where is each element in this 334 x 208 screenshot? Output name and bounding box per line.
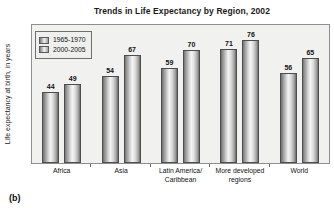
bar-series2 — [124, 55, 141, 163]
legend-label-series1: 1965-1970 — [53, 36, 86, 44]
bar-value: 76 — [247, 31, 255, 39]
bar-holder: 70 — [183, 25, 200, 163]
bar-holder: 54 — [102, 25, 119, 163]
bar-value: 71 — [225, 40, 233, 48]
x-axis-label-line2: regions — [210, 176, 269, 185]
bar-series2 — [183, 50, 200, 163]
x-axis-label-latin-america-caribbean: Latin America/ Caribbean — [151, 167, 210, 184]
bar-series1 — [42, 92, 59, 163]
bar-series2 — [64, 84, 81, 163]
bar-group-world: 56 65 — [270, 25, 329, 163]
legend-item-series2: 2000-2005 — [39, 45, 86, 54]
bar-holder: 76 — [242, 25, 259, 163]
bar-series1 — [220, 49, 237, 163]
legend-item-series1: 1965-1970 — [39, 36, 86, 45]
bar-holder: 65 — [302, 25, 319, 163]
x-axis-label-line1: More developed — [216, 167, 265, 174]
chart-legend: 1965-1970 2000-2005 — [35, 31, 92, 59]
x-axis-label-asia: Asia — [91, 167, 150, 184]
x-axis-label-line1: Africa — [53, 167, 70, 174]
bar-holder: 59 — [161, 25, 178, 163]
figure-caption: (b) — [9, 193, 21, 203]
y-axis-title-wrapper: Life expectancy at birth, in years — [0, 24, 14, 164]
chart-title: Trends in Life Expectancy by Region, 200… — [32, 6, 332, 16]
bar-holder: 71 — [220, 25, 237, 163]
bar-series1 — [280, 73, 297, 163]
bar-group-latin-america-caribbean: 59 70 — [151, 25, 210, 163]
chart-screenshot: Trends in Life Expectancy by Region, 200… — [0, 0, 334, 208]
bar-group-more-developed-regions: 71 76 — [210, 25, 269, 163]
bar-value: 44 — [47, 83, 55, 91]
bar-series1 — [102, 76, 119, 163]
bar-value: 54 — [106, 67, 114, 75]
y-axis-title: Life expectancy at birth, in years — [4, 44, 11, 144]
bar-value: 65 — [306, 49, 314, 57]
bar-series2 — [302, 58, 319, 163]
bar-group-asia: 54 67 — [91, 25, 150, 163]
bar-holder: 56 — [280, 25, 297, 163]
x-axis-label-line1: Asia — [114, 167, 127, 174]
bar-holder: 67 — [124, 25, 141, 163]
x-axis-label-more-developed-regions: More developed regions — [210, 167, 269, 184]
legend-swatch-series2 — [39, 46, 49, 53]
x-axis-label-line1: Latin America/ — [159, 167, 202, 174]
bar-value: 59 — [166, 59, 174, 67]
bar-series1 — [161, 68, 178, 163]
x-axis-labels: Africa Asia Latin America/ Caribbean Mor… — [32, 167, 329, 184]
bar-value: 67 — [128, 46, 136, 54]
bar-series2 — [242, 40, 259, 163]
legend-label-series2: 2000-2005 — [53, 46, 86, 54]
x-axis-label-world: World — [270, 167, 329, 184]
bar-value: 56 — [284, 64, 292, 72]
x-axis-label-line2: Caribbean — [151, 176, 210, 185]
legend-swatch-series1 — [39, 37, 49, 44]
x-axis-label-line1: World — [291, 167, 309, 174]
bar-value: 49 — [69, 75, 77, 83]
bar-value: 70 — [188, 41, 196, 49]
x-axis-label-africa: Africa — [32, 167, 91, 184]
